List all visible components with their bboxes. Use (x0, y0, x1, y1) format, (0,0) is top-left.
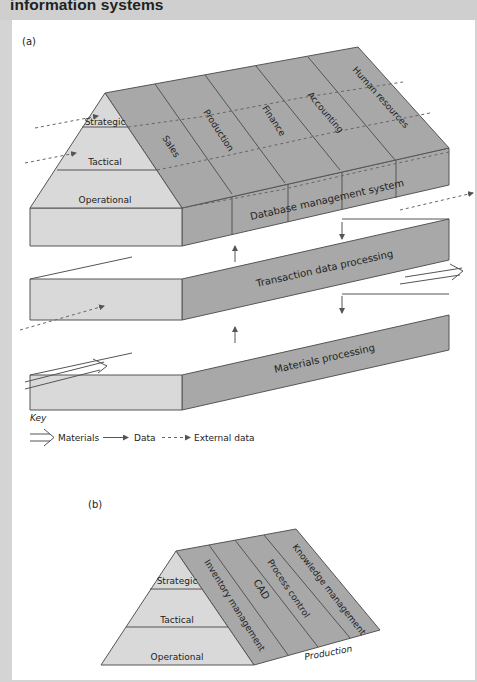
legend: Key Materials Data External data (30, 413, 254, 446)
external-data-arrow-out (400, 193, 473, 210)
layer-materials-processing: Materials processing (30, 315, 449, 410)
legend-title: Key (30, 413, 47, 423)
diagram-a: Materials processing Transaction data pr… (20, 47, 473, 410)
legend-external-data: External data (194, 433, 254, 443)
diagram-a-label: (a) (22, 36, 36, 47)
diagram-b-label: (b) (88, 499, 102, 510)
level-strategic: Strategic (85, 117, 126, 127)
legend-data: Data (134, 433, 156, 443)
level-tactical: Tactical (87, 157, 121, 167)
figure-diagram: (a) Materials processing Transaction dat… (0, 0, 477, 682)
level-operational: Operational (79, 195, 132, 205)
b-level-operational: Operational (151, 652, 204, 662)
b-level-tactical: Tactical (159, 615, 193, 625)
layer-dbms: Strategic Tactical Operational Sales Pro… (30, 47, 449, 246)
legend-materials: Materials (58, 433, 100, 443)
diagram-b: Strategic Tactical Operational Inventory… (101, 529, 380, 665)
materials-arrow-icon (30, 429, 54, 446)
b-level-strategic: Strategic (157, 576, 198, 586)
